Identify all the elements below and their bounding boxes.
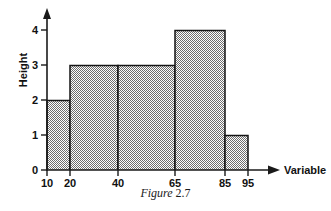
y-tick-label-0: 0 [32,164,38,176]
y-axis-ticks [41,30,47,170]
figure-container: 0 1 2 3 4 10 20 40 65 85 95 Variable Hei… [0,0,331,211]
y-tick-label-3: 3 [32,59,38,71]
histogram-chart: 0 1 2 3 4 10 20 40 65 85 95 Variable Hei… [0,0,331,211]
bar-10-20 [47,101,70,171]
bar-40-65 [118,66,175,171]
bar-20-40 [70,66,118,171]
y-tick-label-4: 4 [32,24,39,36]
y-axis-title: Height [17,53,29,88]
x-axis-ticks [47,170,248,176]
x-axis-title: Variable [284,164,326,176]
y-axis-tick-labels: 0 1 2 3 4 [32,24,39,176]
y-axis-arrow-icon [43,8,51,19]
figure-caption-number: 2.7 [176,186,191,200]
x-axis-arrow-icon [268,166,280,175]
y-tick-label-1: 1 [32,129,38,141]
figure-caption: Figure2.7 [0,186,331,201]
bars-group [47,31,248,171]
bar-85-95 [225,136,248,171]
y-tick-label-2: 2 [32,94,38,106]
bar-65-85 [175,31,225,171]
figure-caption-word: Figure [140,186,172,200]
